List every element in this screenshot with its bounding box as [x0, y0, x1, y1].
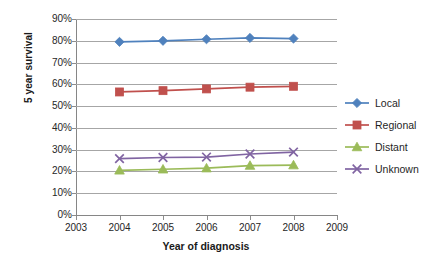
legend-item-local[interactable]: Local: [344, 92, 438, 114]
data-point-marker: [289, 34, 298, 43]
x-axis-tick-label: 2004: [98, 222, 142, 233]
y-axis-tick-label: 40%: [28, 123, 72, 133]
y-axis-tick-label: 20%: [28, 166, 72, 176]
legend-item-regional[interactable]: Regional: [344, 114, 438, 136]
data-point-marker: [246, 83, 254, 91]
x-axis-tick-label: 2003: [54, 222, 98, 233]
y-axis-tick-label: 80%: [28, 36, 72, 46]
diamond-marker-icon: [344, 96, 370, 110]
x-axis-tick-label: 2008: [272, 222, 316, 233]
x-axis-tick-label: 2009: [315, 222, 359, 233]
legend-item-label: Local: [370, 97, 400, 109]
square-marker-icon: [344, 118, 370, 132]
y-axis-tick-label: 60%: [28, 79, 72, 89]
data-point-marker: [159, 87, 167, 95]
data-point-marker: [290, 82, 298, 90]
x-axis-tick-mark: [250, 216, 251, 220]
legend-item-label: Regional: [370, 119, 416, 131]
triangle-marker-icon: [344, 140, 370, 154]
data-point-marker: [203, 85, 211, 93]
y-axis-tick-label: 30%: [28, 145, 72, 155]
series-regional: [116, 82, 298, 96]
series-unknown: [115, 148, 298, 163]
x-axis-title: Year of diagnosis: [75, 240, 337, 252]
x-axis-tick-mark: [294, 216, 295, 220]
x-marker-icon: [344, 162, 370, 176]
y-axis-tick-label: 90%: [28, 14, 72, 24]
y-axis-tick-label: 50%: [28, 101, 72, 111]
x-axis-tick-label: 2006: [185, 222, 229, 233]
x-axis-tick-mark: [163, 216, 164, 220]
legend-item-label: Distant: [370, 141, 408, 153]
data-point-marker: [158, 36, 167, 45]
x-axis-tick-label: 2005: [141, 222, 185, 233]
data-point-marker: [245, 33, 254, 42]
legend-item-label: Unknown: [370, 163, 419, 175]
series-local: [115, 33, 298, 46]
data-point-marker: [116, 88, 124, 96]
legend-item-unknown[interactable]: Unknown: [344, 158, 438, 180]
data-point-marker: [202, 35, 211, 44]
series-distant: [115, 160, 299, 174]
y-axis-tick-label: 10%: [28, 188, 72, 198]
x-axis-tick-mark: [337, 216, 338, 220]
x-axis-tick-mark: [76, 216, 77, 220]
survival-line-chart: 5 year survival 0%10%20%30%40%50%60%70%8…: [0, 0, 440, 264]
legend-item-distant[interactable]: Distant: [344, 136, 438, 158]
y-axis-tick-label: 0%: [28, 210, 72, 220]
series-group: [76, 19, 337, 215]
x-axis-tick-mark: [207, 216, 208, 220]
data-point-marker: [115, 37, 124, 46]
x-axis-tick-mark: [120, 216, 121, 220]
chart-legend: LocalRegionalDistantUnknown: [344, 92, 438, 180]
y-axis-tick-label: 70%: [28, 58, 72, 68]
plot-area: [76, 19, 337, 215]
x-axis-tick-label: 2007: [228, 222, 272, 233]
